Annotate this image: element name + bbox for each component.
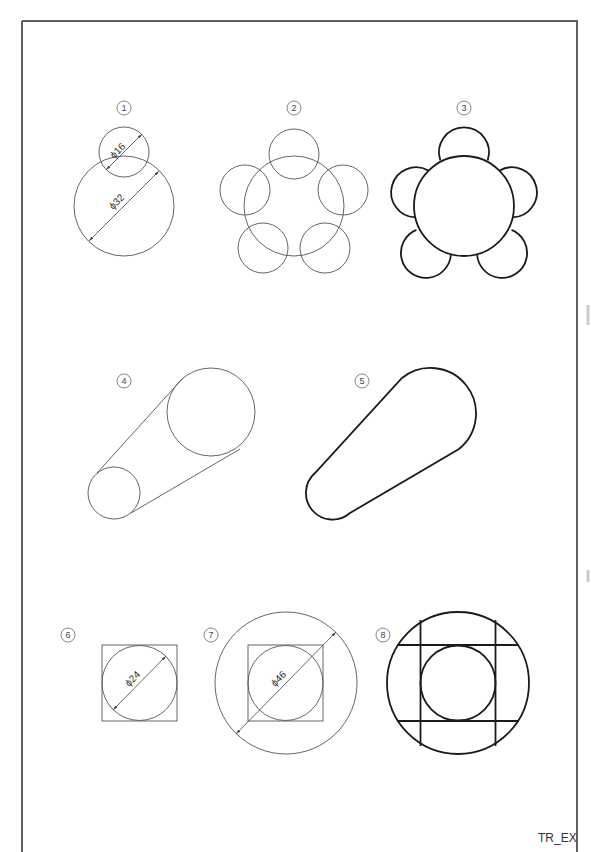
svg-text:4: 4 [121, 376, 126, 386]
label-6: 6 [61, 628, 75, 642]
svg-text:8: 8 [380, 630, 385, 640]
figure-4: 4 [88, 368, 255, 519]
label-2: 2 [287, 101, 301, 115]
dimension-line-24 [113, 656, 166, 710]
drawing-sheet: 1 ϕ16 ϕ32 2 3 [0, 0, 591, 852]
svg-text:2: 2 [291, 103, 296, 113]
label-7: 7 [204, 628, 218, 642]
svg-text:5: 5 [359, 376, 364, 386]
dimension-text-32: ϕ32 [107, 191, 127, 211]
footer-label: TR_EX [538, 831, 577, 845]
dimension-text-46: ϕ46 [269, 668, 289, 688]
figure-8: 8 [376, 612, 529, 754]
dimension-text-24: ϕ24 [123, 668, 143, 688]
label-5: 5 [355, 374, 369, 388]
label-3: 3 [457, 101, 471, 115]
figure-7: 7 ϕ46 [204, 612, 357, 754]
figure-2: 2 [220, 101, 368, 273]
svg-text:3: 3 [461, 103, 466, 113]
label-1: 1 [117, 101, 131, 115]
svg-text:6: 6 [65, 630, 70, 640]
label-4: 4 [117, 374, 131, 388]
figure-5: 5 [306, 368, 476, 520]
dimension-line-46 [236, 632, 336, 734]
svg-text:7: 7 [208, 630, 213, 640]
figure-3: 3 [391, 101, 537, 278]
dimension-line-32 [89, 171, 159, 241]
figure-6: 6 ϕ24 [61, 628, 177, 721]
label-8: 8 [376, 628, 390, 642]
svg-text:1: 1 [121, 103, 126, 113]
figure-1: 1 ϕ16 ϕ32 [74, 101, 174, 256]
